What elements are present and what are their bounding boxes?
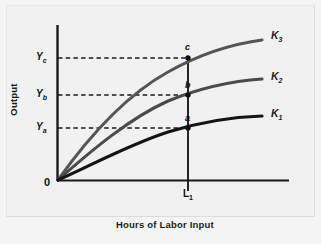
y-tick-ya-sub: a bbox=[43, 127, 47, 134]
y-tick-yb-base: Y bbox=[36, 88, 43, 99]
origin-label: 0 bbox=[44, 176, 50, 188]
y-axis-title: Output bbox=[8, 74, 19, 126]
y-tick-yb-sub: b bbox=[43, 94, 47, 101]
curve-k3 bbox=[58, 40, 262, 180]
point-marker-a bbox=[185, 125, 190, 130]
y-tick-ya-base: Y bbox=[36, 121, 43, 132]
point-marker-c bbox=[185, 55, 190, 60]
curve-k3-base: K bbox=[271, 29, 279, 41]
x-axis-title: Hours of Labor Input bbox=[80, 219, 250, 230]
curve-label-k1: K1 bbox=[271, 107, 283, 121]
y-tick-label-ya: Ya bbox=[36, 121, 47, 134]
curve-k1 bbox=[58, 116, 262, 180]
point-marker-b bbox=[185, 92, 190, 97]
point-label-a: a bbox=[185, 113, 190, 123]
curve-label-k3: K3 bbox=[271, 29, 283, 43]
x-tick-label-l1: L1 bbox=[183, 188, 193, 201]
curve-k1-base: K bbox=[271, 107, 279, 119]
x-tick-l1-sub: 1 bbox=[189, 194, 193, 201]
curve-k2-sub: 2 bbox=[279, 77, 283, 84]
y-tick-yc-sub: c bbox=[43, 57, 47, 64]
y-tick-label-yc: Yc bbox=[36, 51, 47, 64]
curve-k2-base: K bbox=[271, 70, 279, 82]
point-label-b: b bbox=[185, 80, 191, 90]
point-label-c: c bbox=[185, 42, 190, 52]
production-function-figure: Output Hours of Labor Input 0 Yc Yb Ya L… bbox=[0, 0, 321, 244]
y-tick-label-yb: Yb bbox=[36, 88, 47, 101]
curve-k3-sub: 3 bbox=[279, 36, 283, 43]
curve-k1-sub: 1 bbox=[279, 114, 283, 121]
curve-label-k2: K2 bbox=[271, 70, 283, 84]
y-tick-yc-base: Y bbox=[36, 51, 43, 62]
